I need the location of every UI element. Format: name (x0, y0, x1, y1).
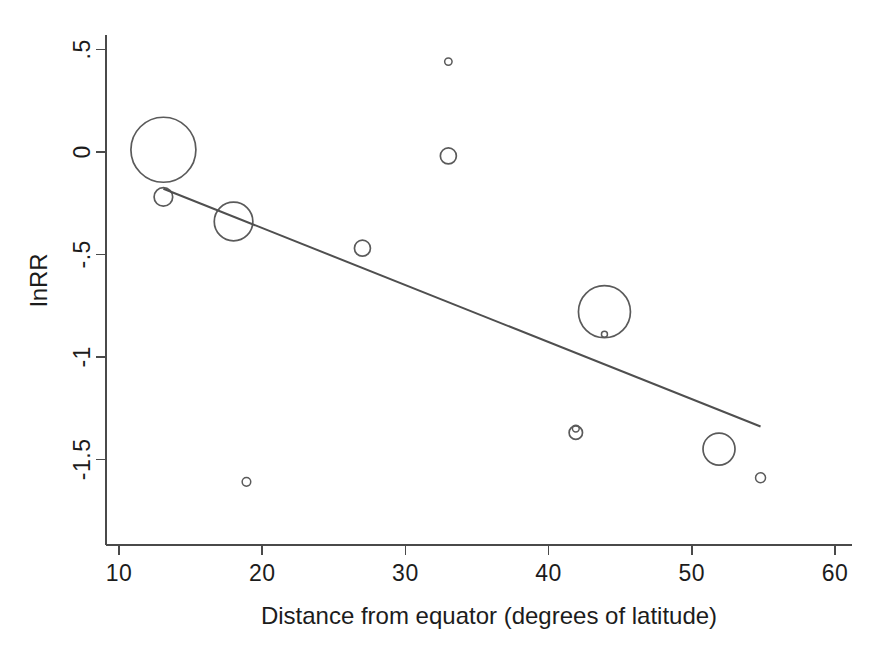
x-axis-ticks: 102030405060 (106, 545, 849, 586)
y-tick-label: -.5 (69, 240, 95, 268)
x-tick-label: 40 (535, 560, 562, 586)
y-tick-label: 0 (69, 145, 95, 158)
x-tick-label: 10 (106, 560, 133, 586)
regression-line-layer (163, 189, 760, 427)
data-point-bubble (601, 331, 607, 337)
axes: 102030405060 .50-.5-1-1.5 (69, 35, 852, 586)
y-tick-label: -1 (69, 346, 95, 367)
data-point-bubble (440, 148, 456, 164)
data-point-bubble (445, 58, 452, 65)
data-point-bubble (131, 117, 196, 182)
data-point-bubble (703, 433, 735, 465)
y-tick-label: .5 (69, 39, 95, 59)
x-tick-label: 20 (249, 560, 276, 586)
bubble-scatter-figure: 102030405060 .50-.5-1-1.5 Distance from … (0, 0, 879, 650)
meta-regression-line (163, 189, 760, 427)
data-point-bubble (242, 478, 251, 487)
data-point-bubble (354, 240, 370, 256)
y-tick-label: -1.5 (69, 438, 95, 480)
x-axis-title: Distance from equator (degrees of latitu… (261, 602, 717, 629)
x-tick-label: 30 (392, 560, 419, 586)
x-tick-label: 60 (822, 560, 849, 586)
y-axis-title: lnRR (25, 253, 52, 306)
x-tick-label: 50 (679, 560, 706, 586)
data-point-bubble (578, 286, 630, 338)
data-point-bubble (756, 473, 766, 483)
data-points-layer (131, 58, 766, 486)
y-axis-ticks: .50-.5-1-1.5 (69, 39, 106, 480)
plot-canvas: 102030405060 .50-.5-1-1.5 Distance from … (0, 0, 879, 650)
